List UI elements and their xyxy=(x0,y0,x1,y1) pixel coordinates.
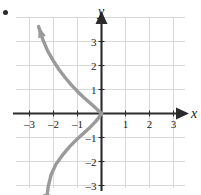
x-tick-label: 1 xyxy=(123,118,129,130)
coordinate-plane-plot: –3–2–1123321–1–2–3xy xyxy=(0,0,201,195)
x-axis-label: x xyxy=(190,106,198,121)
y-tick-label: 3 xyxy=(91,36,97,48)
y-axis-label: y xyxy=(96,4,105,19)
y-tick-label: –3 xyxy=(85,180,98,192)
y-tick-label: –1 xyxy=(85,132,97,144)
x-tick-label: –3 xyxy=(23,118,36,130)
x-tick-label: –2 xyxy=(47,118,59,130)
graph-figure: –3–2–1123321–1–2–3xy xyxy=(0,0,201,195)
bullet-marker-icon xyxy=(3,10,8,15)
x-tick-label: 2 xyxy=(147,118,153,130)
y-tick-label: 1 xyxy=(91,84,97,96)
y-tick-label: –2 xyxy=(85,156,97,168)
x-tick-label: 3 xyxy=(171,118,177,130)
y-tick-label: 2 xyxy=(91,60,97,72)
x-tick-label: –1 xyxy=(71,118,83,130)
